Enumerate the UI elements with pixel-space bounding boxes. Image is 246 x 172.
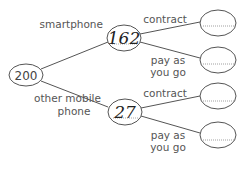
leaf-label-other-contract: contract: [143, 87, 187, 99]
answer-box-other-payg[interactable]: [200, 122, 236, 148]
leaf-label-other-payg-line2: you go: [150, 141, 186, 153]
root-value: 200: [15, 69, 38, 83]
leaf-label-smartphone-payg-line1: pay as: [151, 54, 186, 66]
branch-label-smartphone: smartphone: [40, 18, 103, 30]
answer-box-smartphone-payg[interactable]: [200, 47, 236, 73]
smartphone-value: 162: [108, 28, 140, 48]
branch-label-other-line2: phone: [58, 105, 91, 117]
root-node: 200: [9, 64, 43, 86]
frequency-tree-diagram: 200 smartphone 162 other mobile phone 27…: [0, 0, 246, 172]
node-smartphone: 162: [107, 25, 141, 51]
leaf-label-smartphone-payg-line2: you go: [150, 66, 186, 78]
edge-root-smartphone: [41, 42, 108, 69]
other-mobile-value: 27: [113, 102, 136, 122]
branch-label-other-line1: other mobile: [34, 92, 101, 104]
leaf-label-smartphone-contract: contract: [143, 13, 187, 25]
leaf-label-other-payg-line1: pay as: [151, 129, 186, 141]
answer-box-smartphone-contract[interactable]: [200, 10, 236, 36]
answer-box-other-contract[interactable]: [200, 83, 236, 109]
node-other-mobile: 27: [108, 99, 142, 125]
